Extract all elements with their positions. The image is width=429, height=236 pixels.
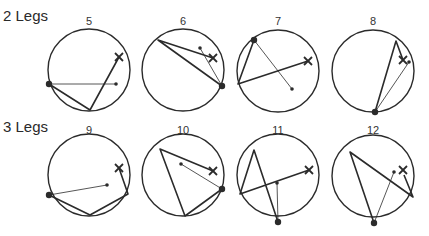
big-dot-icon xyxy=(251,37,257,43)
x-mark-icon xyxy=(399,166,407,174)
x-mark-icon xyxy=(399,56,407,64)
circle-outline xyxy=(48,29,130,111)
circle-diagram-5 xyxy=(46,29,130,111)
circle-outline xyxy=(332,135,414,217)
thick-path xyxy=(49,57,119,110)
thick-path xyxy=(160,149,222,216)
circle-outline xyxy=(332,30,414,112)
big-dot-icon xyxy=(372,109,378,115)
small-dot-icon xyxy=(407,60,411,64)
circle-diagram-11 xyxy=(237,134,319,225)
big-dot-icon xyxy=(371,220,377,226)
circle-diagram-10 xyxy=(142,134,225,216)
big-dot-icon xyxy=(219,83,225,89)
thin-line xyxy=(375,62,409,112)
thick-path xyxy=(350,152,413,223)
circle-diagram-6 xyxy=(142,29,225,111)
x-mark-icon xyxy=(304,57,312,65)
thick-path xyxy=(158,40,222,86)
x-mark-icon xyxy=(115,164,123,172)
small-dot-icon xyxy=(179,162,183,166)
x-mark-icon xyxy=(209,54,217,62)
diagram-canvas xyxy=(0,0,429,236)
circle-outline xyxy=(142,134,224,216)
small-dot-icon xyxy=(105,183,109,187)
thin-line xyxy=(49,185,107,195)
small-dot-icon xyxy=(392,170,396,174)
big-dot-icon xyxy=(219,186,225,192)
x-mark-icon xyxy=(209,167,217,175)
big-dot-icon xyxy=(46,192,52,198)
circle-diagram-12 xyxy=(332,135,414,226)
circle-diagram-7 xyxy=(237,30,319,112)
small-dot-icon xyxy=(290,87,294,91)
circle-outline xyxy=(48,134,130,216)
thin-line xyxy=(254,40,292,89)
x-mark-icon xyxy=(115,53,123,61)
circle-diagram-9 xyxy=(46,134,130,216)
thin-line xyxy=(200,48,222,86)
small-dot-icon xyxy=(114,82,118,86)
small-dot-icon xyxy=(275,181,279,185)
x-mark-icon xyxy=(305,166,313,174)
thick-path xyxy=(49,168,128,215)
circle-diagram-8 xyxy=(332,30,414,115)
small-dot-icon xyxy=(198,46,202,50)
big-dot-icon xyxy=(275,219,281,225)
circle-outline xyxy=(237,134,319,216)
big-dot-icon xyxy=(46,81,52,87)
thick-path xyxy=(238,40,308,84)
circle-outline xyxy=(142,29,224,111)
